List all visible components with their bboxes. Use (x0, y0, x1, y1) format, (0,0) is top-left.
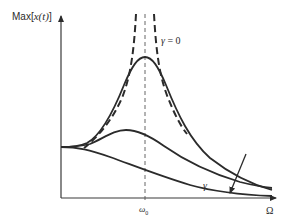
y-axis-label-prefix: Max[ (12, 11, 34, 22)
small-damping-curve (61, 57, 272, 190)
omega0-tick-label: ω0 (139, 205, 148, 216)
omega-subscript: 0 (145, 210, 148, 216)
y-axis-label-suffix: ] (49, 11, 52, 22)
undamped-curve-left (84, 14, 136, 148)
y-axis-label: Max[x(t)] (12, 11, 52, 22)
gamma-zero-label: γ = 0 (161, 36, 181, 46)
gamma-zero-equals: = 0 (165, 35, 181, 46)
x-axis-label: Ω (266, 206, 273, 216)
resonance-diagram (0, 0, 288, 222)
undamped-curve-right (154, 14, 187, 134)
large-damping-curve (61, 147, 272, 196)
gamma-arrow-label: γ (203, 181, 207, 191)
y-axis-label-variable: x(t) (34, 10, 49, 22)
